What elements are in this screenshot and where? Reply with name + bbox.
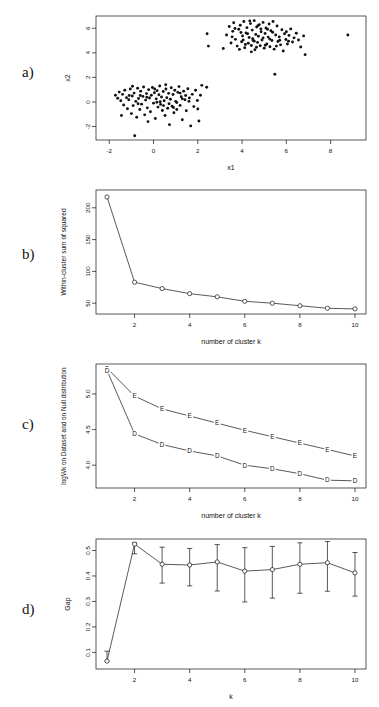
data-point bbox=[264, 44, 267, 47]
data-point bbox=[146, 106, 149, 109]
data-point bbox=[167, 92, 170, 95]
data-point bbox=[271, 31, 274, 34]
x-tick-label: 8 bbox=[329, 147, 333, 154]
data-point bbox=[175, 108, 178, 111]
data-point bbox=[184, 98, 187, 101]
data-point bbox=[215, 560, 219, 564]
data-point bbox=[131, 95, 134, 98]
x-tick-label: 4 bbox=[188, 676, 192, 683]
data-point bbox=[147, 88, 150, 91]
series-line bbox=[107, 544, 355, 661]
x-tick-label: 2 bbox=[133, 321, 137, 328]
data-point bbox=[136, 87, 139, 90]
data-point bbox=[228, 25, 231, 28]
data-point bbox=[134, 100, 137, 103]
y-tick-label: 4.0 bbox=[84, 460, 91, 469]
data-point bbox=[287, 40, 290, 43]
data-point bbox=[130, 112, 133, 115]
data-point bbox=[260, 30, 263, 33]
data-point bbox=[147, 120, 150, 123]
data-point-marker-E: E bbox=[215, 419, 219, 426]
data-point bbox=[241, 34, 244, 37]
data-point bbox=[150, 94, 153, 97]
data-point bbox=[153, 91, 156, 94]
x-tick-label: 0 bbox=[152, 147, 156, 154]
data-point bbox=[116, 97, 119, 100]
panel-d-figure: 2468100.10.20.30.40.5kGap bbox=[0, 525, 379, 707]
data-point bbox=[298, 304, 302, 308]
data-point bbox=[153, 88, 156, 91]
data-point bbox=[157, 93, 160, 96]
data-point bbox=[105, 195, 109, 199]
data-point bbox=[168, 123, 171, 126]
data-point bbox=[255, 46, 258, 49]
data-point bbox=[133, 92, 136, 95]
data-point bbox=[188, 97, 191, 100]
data-point bbox=[325, 306, 329, 310]
data-point-marker-E: E bbox=[270, 433, 274, 440]
data-point bbox=[246, 32, 249, 35]
series-line-D bbox=[107, 370, 355, 480]
data-point bbox=[325, 561, 329, 565]
data-point bbox=[346, 34, 349, 37]
y-tick-label: 0.3 bbox=[84, 597, 91, 606]
data-point bbox=[298, 562, 302, 566]
data-point bbox=[170, 86, 173, 89]
data-point bbox=[128, 94, 131, 97]
data-point bbox=[242, 38, 245, 41]
data-point bbox=[250, 44, 253, 47]
data-point bbox=[238, 48, 241, 51]
y-axis-label: x2 bbox=[64, 74, 71, 82]
data-point bbox=[129, 88, 132, 91]
data-point-marker-D: D bbox=[270, 465, 275, 472]
data-point bbox=[245, 26, 248, 29]
data-point bbox=[132, 542, 136, 546]
data-point bbox=[181, 118, 184, 121]
data-point-marker-D: D bbox=[187, 447, 192, 454]
data-point-marker-E: E bbox=[188, 412, 192, 419]
data-point bbox=[155, 97, 158, 100]
data-point bbox=[139, 94, 142, 97]
x-tick-label: 6 bbox=[243, 495, 247, 502]
data-point bbox=[142, 86, 145, 89]
y-tick-label: 0.5 bbox=[84, 546, 91, 555]
data-point-marker-D: D bbox=[160, 441, 165, 448]
data-point-marker-D: D bbox=[242, 462, 247, 469]
data-point bbox=[127, 98, 130, 101]
data-point-marker-D: D bbox=[353, 477, 358, 484]
x-tick-label: -2 bbox=[107, 147, 113, 154]
data-point-marker-E: E bbox=[298, 439, 302, 446]
y-tick-label: 4 bbox=[84, 51, 91, 55]
x-tick-label: 4 bbox=[188, 321, 192, 328]
data-point bbox=[253, 48, 256, 51]
panel-a: a) -202468-20246x1x2 bbox=[0, 0, 379, 178]
data-point bbox=[264, 32, 267, 35]
data-point bbox=[237, 28, 240, 31]
data-point bbox=[169, 98, 172, 101]
data-point bbox=[239, 24, 242, 27]
plot-border bbox=[96, 190, 366, 314]
data-point bbox=[200, 84, 203, 87]
data-point bbox=[118, 91, 121, 94]
data-point bbox=[270, 567, 274, 571]
panel-b: b) 24681050100150200number of cluster kW… bbox=[0, 178, 379, 350]
error-bar bbox=[270, 546, 275, 598]
data-point bbox=[289, 27, 292, 30]
data-point bbox=[158, 85, 161, 88]
data-point bbox=[196, 99, 199, 102]
y-tick-label: 200 bbox=[84, 202, 91, 213]
data-point bbox=[207, 45, 210, 48]
data-point bbox=[181, 97, 184, 100]
panel-d: d) 2468100.10.20.30.40.5kGap bbox=[0, 525, 379, 707]
data-point bbox=[166, 107, 169, 110]
data-point bbox=[137, 97, 140, 100]
data-point bbox=[173, 89, 176, 92]
y-tick-label: 2 bbox=[84, 75, 91, 79]
data-point bbox=[222, 47, 225, 50]
series-line bbox=[107, 197, 355, 309]
data-point bbox=[230, 42, 233, 45]
data-point bbox=[247, 42, 250, 45]
data-point bbox=[164, 88, 167, 91]
panel-c-figure: 2468104.04.55.0EEEEEEEEEEDDDDDDDDDDnumbe… bbox=[0, 350, 379, 525]
data-point bbox=[285, 30, 288, 33]
